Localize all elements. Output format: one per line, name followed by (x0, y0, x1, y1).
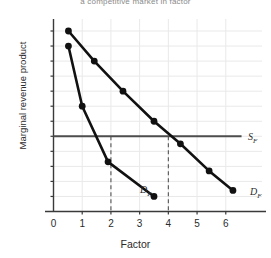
x-axis-tick-label: 6 (216, 218, 236, 229)
y-axis-title: Marginal revenue product (17, 21, 28, 171)
x-axis-tick-label: 2 (101, 218, 121, 229)
series-label-subscript: F (253, 137, 257, 145)
series-label-subscript: F (257, 192, 261, 200)
x-axis-tick-label: 0 (44, 218, 64, 229)
x-axis-tick-label: 3 (130, 218, 150, 229)
x-axis-tick-labels: 0123456 (0, 0, 271, 258)
x-axis-tick-label: 5 (187, 218, 207, 229)
series-label-demand-upper: DF (250, 186, 262, 200)
series-label-subscript: F (147, 190, 151, 198)
x-axis-title: Factor (0, 238, 271, 250)
series-label-demand-lower: DF (140, 184, 152, 198)
chart-container: a competitive market in factor 010203040… (0, 0, 271, 258)
series-label-supply: SF (248, 131, 257, 145)
x-axis-tick-label: 1 (72, 218, 92, 229)
x-axis-tick-label: 4 (158, 218, 178, 229)
